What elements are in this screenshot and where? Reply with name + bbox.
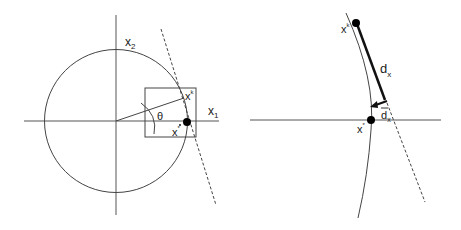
x1-axis-label: x1 bbox=[208, 104, 219, 120]
right-panel: xk dx dx x* bbox=[250, 13, 441, 218]
tangent-line bbox=[387, 103, 425, 202]
iterate-dot bbox=[352, 19, 360, 27]
theta-label: θ bbox=[157, 110, 163, 122]
optimum-dot bbox=[183, 118, 191, 126]
figure: x2 x1 θ xk x* xk dx dx x* bbox=[0, 0, 461, 230]
radius-line bbox=[116, 98, 184, 121]
optimum-label: x* bbox=[172, 125, 181, 138]
constraint-curve bbox=[346, 13, 372, 218]
optimum-dot bbox=[367, 116, 375, 124]
left-panel: x2 x1 θ xk x* bbox=[24, 15, 219, 215]
optimum-label: x* bbox=[357, 122, 366, 135]
projected-label: dx bbox=[381, 109, 391, 123]
iterate-label: xk bbox=[185, 89, 195, 102]
x2-axis-label: x2 bbox=[125, 35, 136, 51]
angle-arc bbox=[141, 103, 155, 134]
iterate-label: xk bbox=[341, 22, 351, 35]
direction-label: dx bbox=[380, 61, 391, 79]
